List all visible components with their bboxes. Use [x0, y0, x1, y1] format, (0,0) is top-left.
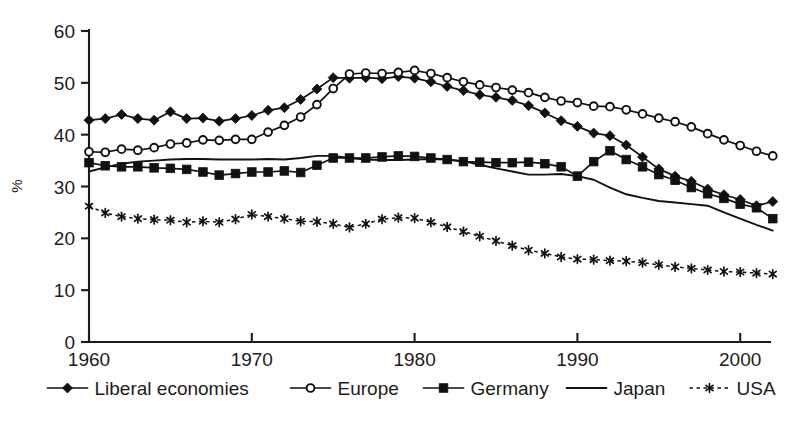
- legend-label: Liberal economies: [95, 378, 249, 399]
- data-point-marker: [63, 383, 73, 393]
- data-point-marker: [736, 142, 744, 150]
- data-point-marker: [263, 105, 273, 115]
- legend-item-liberal-economies[interactable]: Liberal economies: [48, 378, 249, 399]
- data-point-marker: [475, 90, 485, 100]
- series-path: [89, 206, 773, 274]
- data-point-marker: [85, 158, 94, 167]
- data-point-marker: [362, 69, 370, 77]
- data-point-marker: [102, 209, 109, 218]
- data-point-marker: [769, 270, 776, 279]
- legend-item-germany[interactable]: Germany: [424, 378, 550, 399]
- data-point-marker: [231, 169, 240, 178]
- data-point-marker: [199, 168, 208, 177]
- data-point-marker: [362, 220, 369, 229]
- y-tick-label: 40: [54, 125, 75, 146]
- data-point-marker: [166, 164, 175, 173]
- data-point-marker: [557, 97, 565, 105]
- data-point-marker: [540, 108, 550, 118]
- data-point-marker: [557, 163, 566, 172]
- data-point-marker: [590, 102, 598, 110]
- data-point-marker: [623, 257, 630, 266]
- data-point-marker: [118, 145, 126, 153]
- y-tick-label: 30: [54, 177, 75, 198]
- data-point-marker: [492, 84, 500, 92]
- data-point-marker: [541, 93, 549, 101]
- data-point-marker: [85, 148, 93, 156]
- data-point-marker: [525, 246, 532, 255]
- data-point-marker: [117, 109, 127, 119]
- data-point-marker: [507, 95, 517, 105]
- data-point-marker: [753, 147, 761, 155]
- y-tick-label: 20: [54, 228, 75, 249]
- data-point-marker: [214, 116, 224, 126]
- data-point-marker: [672, 263, 679, 272]
- data-point-marker: [508, 158, 517, 167]
- legend-item-usa[interactable]: USA: [690, 378, 776, 399]
- data-point-marker: [264, 128, 272, 136]
- data-point-marker: [525, 89, 533, 97]
- data-point-marker: [198, 113, 208, 123]
- data-point-marker: [264, 168, 273, 177]
- data-point-marker: [296, 94, 306, 104]
- data-point-marker: [84, 115, 94, 125]
- data-point-marker: [460, 78, 468, 86]
- chart-axes: [81, 30, 770, 342]
- legend-label: Germany: [471, 378, 550, 399]
- data-point-marker: [687, 123, 695, 131]
- data-point-marker: [768, 197, 778, 207]
- data-point-marker: [639, 110, 647, 118]
- data-point-marker: [133, 114, 143, 124]
- data-point-marker: [655, 170, 664, 179]
- data-point-marker: [182, 165, 191, 174]
- legend-label: Japan: [614, 378, 666, 399]
- data-point-marker: [704, 130, 712, 138]
- data-point-marker: [101, 148, 109, 156]
- x-tick-label: 1960: [68, 349, 110, 370]
- data-point-marker: [86, 202, 93, 211]
- data-point-marker: [394, 152, 403, 161]
- legend-item-europe[interactable]: Europe: [291, 378, 399, 399]
- data-point-marker: [329, 85, 337, 93]
- data-point-marker: [439, 384, 448, 393]
- data-point-marker: [769, 152, 777, 160]
- data-point-marker: [280, 167, 289, 176]
- data-point-marker: [574, 99, 582, 107]
- data-point-marker: [622, 155, 631, 164]
- data-point-marker: [524, 158, 533, 167]
- data-point-marker: [312, 84, 322, 94]
- data-point-marker: [622, 106, 630, 114]
- data-point-marker: [671, 118, 679, 126]
- y-tick-label: 10: [54, 280, 75, 301]
- data-point-marker: [232, 215, 239, 224]
- legend-label: USA: [737, 378, 776, 399]
- data-point-marker: [606, 146, 615, 155]
- data-point-marker: [720, 136, 728, 144]
- data-point-marker: [589, 128, 599, 138]
- data-point-marker: [100, 114, 110, 124]
- data-point-marker: [183, 139, 191, 147]
- data-point-marker: [589, 157, 598, 166]
- data-point-marker: [247, 110, 257, 120]
- data-point-marker: [231, 114, 241, 124]
- data-point-marker: [411, 66, 419, 74]
- data-point-marker: [443, 74, 451, 82]
- data-point-marker: [361, 154, 370, 163]
- data-point-marker: [491, 92, 501, 102]
- line-chart: 010203040506019601970198019902000% Liber…: [0, 0, 794, 422]
- data-point-marker: [524, 101, 534, 111]
- data-point-marker: [541, 159, 550, 168]
- chart-series-layer: [84, 66, 778, 278]
- data-point-marker: [134, 214, 141, 223]
- legend-item-japan[interactable]: Japan: [567, 378, 666, 399]
- data-point-marker: [134, 146, 142, 154]
- data-point-marker: [638, 163, 647, 172]
- data-point-marker: [508, 86, 516, 94]
- data-point-marker: [279, 103, 289, 113]
- data-point-marker: [248, 135, 256, 143]
- data-point-marker: [671, 176, 680, 185]
- data-point-marker: [703, 189, 712, 198]
- legend-label: Europe: [338, 378, 399, 399]
- data-point-marker: [167, 140, 175, 148]
- data-point-marker: [183, 218, 190, 227]
- data-point-marker: [248, 168, 257, 177]
